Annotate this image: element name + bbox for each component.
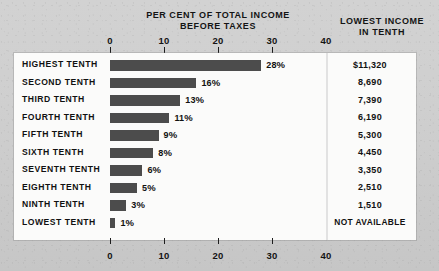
chart-row: THIRD TENTH13%7,390	[14, 92, 416, 110]
chart-row: SEVENTH TENTH6%3,350	[14, 162, 416, 180]
category-label: SEVENTH TENTH	[22, 164, 110, 174]
income-value: 2,510	[328, 182, 412, 192]
category-label: HIGHEST TENTH	[22, 59, 110, 69]
figure-root: PER CENT OF TOTAL INCOME BEFORE TAXES LO…	[0, 0, 439, 271]
bar-value-label: 13%	[185, 94, 204, 105]
bar	[110, 165, 142, 176]
chart-row: LOWEST TENTH1%NOT AVAILABLE	[14, 215, 416, 233]
x-axis-bottom-ticks	[0, 238, 439, 244]
bar	[110, 113, 169, 124]
chart-row: SECOND TENTH16%8,690	[14, 75, 416, 93]
bar-value-label: 3%	[131, 199, 145, 210]
x-axis-bottom-labels: 010203040	[0, 250, 439, 262]
bar	[110, 130, 159, 141]
x-axis-tick-label: 10	[158, 250, 169, 261]
bar-value-label: 28%	[266, 59, 285, 70]
bar-value-label: 16%	[201, 77, 220, 88]
x-axis-tick-mark	[218, 238, 219, 244]
chart-panel: HIGHEST TENTH28%$11,320SECOND TENTH16%8,…	[14, 53, 416, 240]
income-value: 3,350	[328, 165, 412, 175]
x-axis-tick-label: 40	[320, 250, 331, 261]
income-value: 1,510	[328, 200, 412, 210]
bar-value-label: 6%	[147, 164, 161, 175]
chart-row: NINTH TENTH3%1,510	[14, 197, 416, 215]
category-label: NINTH TENTH	[22, 199, 110, 209]
chart-row: SIXTH TENTH8%4,450	[14, 145, 416, 163]
chart-title-line-1: PER CENT OF TOTAL INCOME	[118, 10, 318, 21]
category-label: FIFTH TENTH	[22, 129, 110, 139]
x-axis-top-labels: 010203040	[0, 35, 439, 47]
category-label: SECOND TENTH	[22, 77, 110, 87]
bar	[110, 200, 126, 211]
chart-row: EIGHTH TENTH5%2,510	[14, 180, 416, 198]
bar-value-label: 1%	[120, 217, 134, 228]
chart-row: FIFTH TENTH9%5,300	[14, 127, 416, 145]
category-label: THIRD TENTH	[22, 94, 110, 104]
x-axis-tick-mark	[110, 238, 111, 244]
x-axis-tick-label: 40	[320, 35, 331, 46]
chart-row: FOURTH TENTH11%6,190	[14, 110, 416, 128]
bar	[110, 218, 115, 229]
chart-title: PER CENT OF TOTAL INCOME BEFORE TAXES	[118, 10, 318, 32]
chart-title-line-2: BEFORE TAXES	[118, 21, 318, 32]
category-label: SIXTH TENTH	[22, 147, 110, 157]
income-value: 5,300	[328, 130, 412, 140]
bar-value-label: 11%	[174, 112, 192, 123]
bar	[110, 183, 137, 194]
bar-value-label: 5%	[142, 182, 156, 193]
x-axis-tick-label: 30	[266, 35, 277, 46]
income-value: NOT AVAILABLE	[328, 217, 412, 227]
x-axis-tick-label: 20	[212, 250, 223, 261]
bar	[110, 78, 196, 89]
bar	[110, 95, 180, 106]
income-value: 4,450	[328, 147, 412, 157]
x-axis-tick-label: 30	[266, 250, 277, 261]
income-value: $11,320	[328, 60, 412, 70]
x-axis-tick-label: 20	[212, 35, 223, 46]
category-label: EIGHTH TENTH	[22, 182, 110, 192]
x-axis-tick-label: 0	[107, 35, 113, 46]
bar-value-label: 9%	[164, 129, 178, 140]
bar	[110, 60, 261, 71]
x-axis-tick-label: 10	[158, 35, 169, 46]
x-axis-tick-mark	[272, 238, 273, 244]
category-label: LOWEST TENTH	[22, 217, 110, 227]
bar	[110, 148, 153, 159]
chart-row: HIGHEST TENTH28%$11,320	[14, 57, 416, 75]
income-value: 7,390	[328, 95, 412, 105]
income-value: 8,690	[328, 77, 412, 87]
bar-value-label: 8%	[158, 147, 172, 158]
income-column-title-line-1: LOWEST INCOME	[334, 16, 430, 27]
x-axis-tick-mark	[164, 238, 165, 244]
category-label: FOURTH TENTH	[22, 112, 110, 122]
x-axis-tick-label: 0	[107, 250, 113, 261]
income-value: 6,190	[328, 112, 412, 122]
